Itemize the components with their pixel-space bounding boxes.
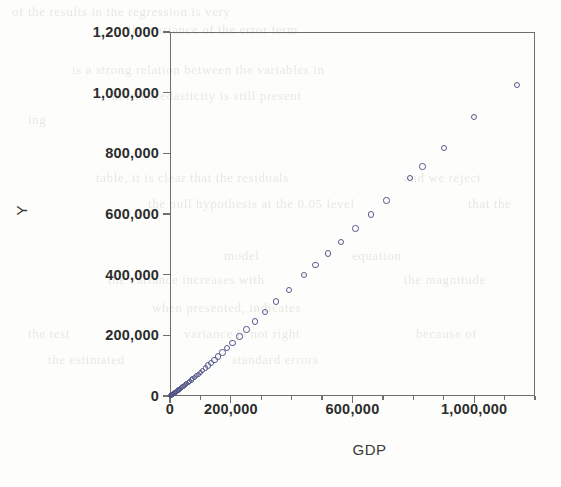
y-tick-label: 200,000 xyxy=(105,327,159,343)
x-tick-mark xyxy=(474,396,475,403)
x-tick-mark xyxy=(534,396,535,400)
scanned-chart-page: of the results in the regression is very… xyxy=(0,0,561,487)
y-tick-label: 1,200,000 xyxy=(93,24,159,40)
x-axis-title-text: GDP xyxy=(352,441,386,458)
x-tick-mark xyxy=(504,396,505,400)
x-tick-mark xyxy=(443,396,444,400)
data-point xyxy=(352,225,358,231)
plot-frame xyxy=(170,32,535,396)
y-axis-tick-labels: 0200,000400,000600,000800,0001,000,0001,… xyxy=(0,0,159,487)
x-tick-mark xyxy=(382,396,383,400)
data-point xyxy=(236,333,242,339)
y-tick-label: 0 xyxy=(151,388,159,404)
x-tick-label: 0 xyxy=(166,401,174,417)
data-point xyxy=(229,340,235,346)
y-tick-label: 400,000 xyxy=(105,267,159,283)
scatter-chart: 0200,000400,000600,000800,0001,000,0001,… xyxy=(0,0,561,487)
y-tick-label: 600,000 xyxy=(105,206,159,222)
y-tick-mark xyxy=(163,31,170,32)
y-tick-mark xyxy=(163,274,170,275)
x-tick-mark xyxy=(352,396,353,403)
data-point xyxy=(368,211,374,217)
data-point xyxy=(252,318,258,324)
data-point xyxy=(243,326,249,332)
data-point xyxy=(383,197,389,203)
x-tick-mark xyxy=(291,396,292,400)
y-tick-mark xyxy=(163,92,170,93)
x-tick-mark xyxy=(413,396,414,400)
x-axis-title: GDP xyxy=(0,441,561,458)
data-point xyxy=(273,298,279,304)
x-tick-label: 1,000,000 xyxy=(441,401,507,417)
y-tick-label: 1,000,000 xyxy=(93,85,159,101)
data-point xyxy=(325,250,331,256)
y-axis-title: Y xyxy=(13,205,30,215)
data-point xyxy=(419,163,425,169)
y-tick-mark xyxy=(163,153,170,154)
y-tick-label: 800,000 xyxy=(105,145,159,161)
x-tick-label: 200,000 xyxy=(204,401,258,417)
x-tick-label: 600,000 xyxy=(326,401,380,417)
x-tick-mark xyxy=(321,396,322,400)
y-tick-mark xyxy=(163,213,170,214)
x-tick-mark xyxy=(200,396,201,400)
x-tick-mark xyxy=(230,396,231,403)
data-point xyxy=(312,262,318,268)
y-tick-mark xyxy=(163,335,170,336)
data-point xyxy=(441,145,447,151)
x-tick-mark xyxy=(261,396,262,400)
